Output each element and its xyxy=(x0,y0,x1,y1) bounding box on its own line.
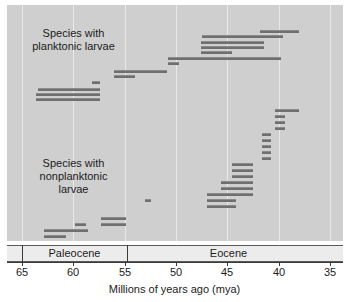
range-bar xyxy=(232,163,253,166)
range-bar xyxy=(221,187,253,190)
ticklabel-60: 60 xyxy=(67,266,79,278)
range-bar xyxy=(262,145,271,148)
range-bar xyxy=(202,35,283,38)
range-bar xyxy=(262,151,271,154)
ticklabel-45: 45 xyxy=(221,266,233,278)
ticklabel-40: 40 xyxy=(273,266,285,278)
gridline-50 xyxy=(176,5,177,241)
range-bar xyxy=(44,235,67,238)
range-bar xyxy=(101,217,126,220)
ticklabel-55: 55 xyxy=(119,266,131,278)
range-bar xyxy=(168,57,281,60)
range-bar xyxy=(260,30,299,33)
range-bar xyxy=(36,98,100,101)
chart-figure: Species with planktonic larvae Species w… xyxy=(0,0,349,302)
range-bar xyxy=(207,193,253,196)
range-bar xyxy=(262,139,271,142)
range-bar xyxy=(145,199,151,202)
x-axis-title: Millions of years ago (mya) xyxy=(0,283,349,295)
range-bar xyxy=(75,223,85,226)
range-bar xyxy=(201,41,265,44)
x-axis-line xyxy=(7,262,343,263)
range-bar xyxy=(201,51,233,54)
range-bar xyxy=(221,181,253,184)
range-bar xyxy=(207,199,236,202)
ticklabel-65: 65 xyxy=(16,266,28,278)
range-bar xyxy=(38,88,100,91)
range-bar xyxy=(44,229,76,232)
range-bar xyxy=(275,109,300,112)
range-bar xyxy=(275,121,285,124)
range-bar xyxy=(36,93,100,96)
epoch-band: Paleocene Eocene xyxy=(7,245,343,262)
plot-area: Species with planktonic larvae Species w… xyxy=(7,5,343,241)
range-bar xyxy=(92,81,100,84)
series-label-planktonic: Species with planktonic larvae xyxy=(21,27,126,53)
range-bar xyxy=(101,223,126,226)
range-bar xyxy=(262,133,271,136)
range-bar xyxy=(232,175,253,178)
range-bar xyxy=(75,229,87,232)
ticklabel-35: 35 xyxy=(324,266,336,278)
series-label-nonplanktonic: Species with nonplanktonic larvae xyxy=(21,157,126,196)
range-bar xyxy=(275,127,285,130)
range-bar xyxy=(168,62,179,65)
gridline-35 xyxy=(330,5,331,241)
epoch-label-eocene: Eocene xyxy=(127,246,330,261)
ticklabel-50: 50 xyxy=(170,266,182,278)
range-bar xyxy=(232,169,253,172)
range-bar xyxy=(207,205,236,208)
range-bar xyxy=(275,115,285,118)
range-bar xyxy=(262,157,271,160)
range-bar xyxy=(201,46,265,49)
range-bar xyxy=(114,75,135,78)
epoch-label-paleocene: Paleocene xyxy=(22,246,127,261)
range-bar xyxy=(114,70,166,73)
